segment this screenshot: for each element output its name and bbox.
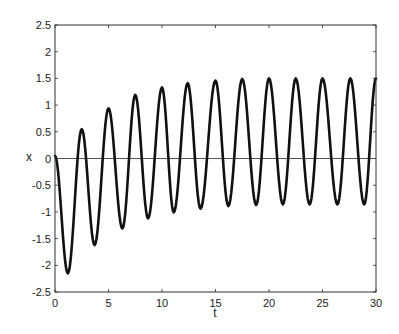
x-tick-labels: 051015202530 xyxy=(52,297,382,309)
x-tick-label: 5 xyxy=(105,297,111,309)
y-tick-label: -1 xyxy=(41,206,51,218)
y-tick-label: 2.5 xyxy=(36,19,51,31)
x-tick-label: 25 xyxy=(316,297,328,309)
y-tick-label: 0 xyxy=(45,153,51,165)
y-tick-label: -0.5 xyxy=(32,179,51,191)
x-tick-label: 30 xyxy=(370,297,382,309)
chart: 051015202530 -2.5-2-1.5-1-0.500.511.522.… xyxy=(0,0,399,334)
y-tick-labels: -2.5-2-1.5-1-0.500.511.522.5 xyxy=(32,19,51,298)
x-tick-label: 10 xyxy=(156,297,168,309)
x-tick-label: 0 xyxy=(52,297,58,309)
y-tick-label: -2.5 xyxy=(32,286,51,298)
x-tick-label: 20 xyxy=(263,297,275,309)
y-tick-label: 1 xyxy=(45,99,51,111)
y-tick-label: -2 xyxy=(41,259,51,271)
y-tick-label: -1.5 xyxy=(32,233,51,245)
y-axis-label: x xyxy=(26,150,32,164)
y-tick-label: 1.5 xyxy=(36,72,51,84)
y-tick-label: 2 xyxy=(45,46,51,58)
y-tick-label: 0.5 xyxy=(36,126,51,138)
